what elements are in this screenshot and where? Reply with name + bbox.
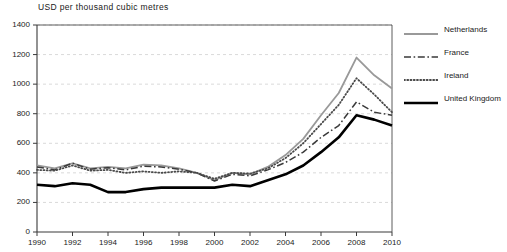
y-tick-label: 1400 xyxy=(0,21,30,29)
legend-label: Ireland xyxy=(444,71,468,80)
series-line-netherlands xyxy=(37,58,392,181)
x-tick-label: 1998 xyxy=(161,239,197,247)
legend-swatch-icon xyxy=(404,48,438,58)
axis-ticks xyxy=(33,25,392,236)
y-tick-label: 1200 xyxy=(0,51,30,59)
x-tick-label: 1992 xyxy=(55,239,91,247)
x-tick-label: 1990 xyxy=(19,239,55,247)
x-tick-label: 2008 xyxy=(339,239,375,247)
gridlines xyxy=(37,25,392,202)
x-tick-label: 2002 xyxy=(232,239,268,247)
legend-label: France xyxy=(444,48,469,57)
x-tick-label: 2000 xyxy=(197,239,233,247)
legend-item-france[interactable]: France xyxy=(404,41,507,64)
legend-item-united-kingdom[interactable]: United Kingdom xyxy=(404,87,507,110)
legend-swatch-icon xyxy=(404,94,438,104)
chart-legend: NetherlandsFranceIrelandUnited Kingdom xyxy=(404,18,507,110)
x-tick-label: 2004 xyxy=(268,239,304,247)
x-tick-label: 1996 xyxy=(126,239,162,247)
x-tick-label: 1994 xyxy=(90,239,126,247)
legend-swatch-icon xyxy=(404,25,438,35)
axis-lines xyxy=(37,25,392,232)
y-tick-label: 400 xyxy=(0,169,30,177)
legend-item-netherlands[interactable]: Netherlands xyxy=(404,18,507,41)
y-tick-label: 1000 xyxy=(0,80,30,88)
legend-item-ireland[interactable]: Ireland xyxy=(404,64,507,87)
x-tick-label: 2010 xyxy=(374,239,410,247)
y-tick-label: 0 xyxy=(0,228,30,236)
data-series-group xyxy=(37,58,392,193)
y-tick-label: 800 xyxy=(0,110,30,118)
x-tick-label: 2006 xyxy=(303,239,339,247)
legend-label: United Kingdom xyxy=(444,94,501,103)
y-tick-label: 200 xyxy=(0,198,30,206)
legend-swatch-icon xyxy=(404,71,438,81)
legend-label: Netherlands xyxy=(444,25,487,34)
y-tick-label: 600 xyxy=(0,139,30,147)
chart-container: USD per thousand cubic metres 0200400600… xyxy=(0,0,507,252)
